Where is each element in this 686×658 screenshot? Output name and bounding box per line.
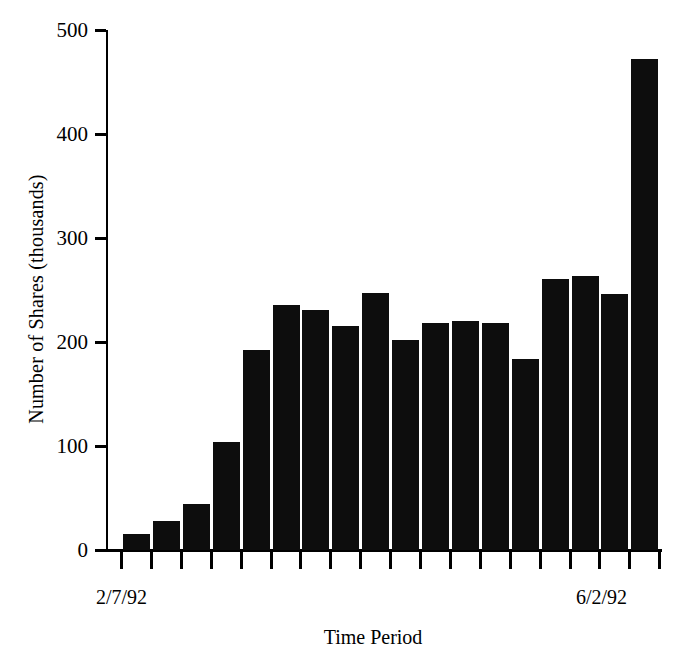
- bar: [542, 279, 569, 550]
- bar: [601, 294, 628, 550]
- bar: [362, 293, 389, 550]
- bar: [482, 323, 509, 550]
- bar: [243, 350, 270, 550]
- x-tick-4: [240, 552, 243, 569]
- bar: [422, 323, 449, 550]
- x-tick-13: [509, 552, 512, 569]
- x-tick-7: [329, 552, 332, 569]
- bar-series: [0, 0, 686, 550]
- bar: [512, 359, 539, 550]
- bar: [452, 321, 479, 550]
- x-axis-start-label: 2/7/92: [96, 586, 147, 609]
- x-tick-2: [180, 552, 183, 569]
- x-tick-10: [419, 552, 422, 569]
- bar: [273, 305, 300, 550]
- x-tick-12: [479, 552, 482, 569]
- bar: [183, 504, 210, 550]
- x-axis-title: Time Period: [264, 626, 423, 649]
- bar: [332, 326, 359, 550]
- bar: [213, 442, 240, 550]
- x-tick-9: [389, 552, 392, 569]
- x-axis-end-label: 6/2/92: [576, 586, 627, 609]
- bar: [572, 276, 599, 550]
- x-tick-11: [449, 552, 452, 569]
- x-tick-8: [359, 552, 362, 569]
- x-tick-17: [628, 552, 631, 569]
- chart-figure: Number of Shares (thousands) 01002003004…: [0, 0, 686, 658]
- x-tick-15: [569, 552, 572, 569]
- x-axis-title-wrap: Time Period: [0, 626, 686, 649]
- x-tick-16: [598, 552, 601, 569]
- x-tick-1: [150, 552, 153, 569]
- x-tick-5: [270, 552, 273, 569]
- bar: [153, 521, 180, 550]
- bar: [123, 534, 150, 550]
- x-tick-0: [120, 552, 123, 569]
- x-tick-18: [658, 552, 661, 569]
- x-tick-14: [539, 552, 542, 569]
- x-tick-3: [210, 552, 213, 569]
- bar: [631, 59, 658, 550]
- bar: [392, 340, 419, 550]
- x-tick-6: [299, 552, 302, 569]
- bar: [302, 310, 329, 550]
